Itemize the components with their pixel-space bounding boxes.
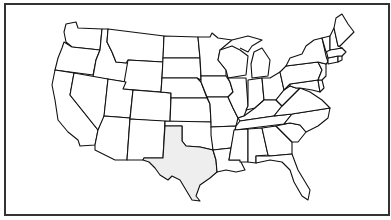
state-colorado[interactable] (130, 90, 171, 122)
state-north-dakota[interactable] (163, 36, 200, 58)
state-florida[interactable] (256, 154, 310, 200)
state-new-mexico[interactable] (127, 119, 165, 160)
state-south-dakota[interactable] (162, 58, 201, 80)
us-map (0, 0, 391, 220)
state-kansas[interactable] (170, 98, 211, 122)
state-new-york[interactable] (286, 38, 328, 66)
state-wyoming[interactable] (123, 60, 163, 92)
state-maine[interactable] (334, 14, 354, 46)
state-rhode-island[interactable] (338, 56, 342, 62)
state-montana[interactable] (107, 29, 164, 63)
